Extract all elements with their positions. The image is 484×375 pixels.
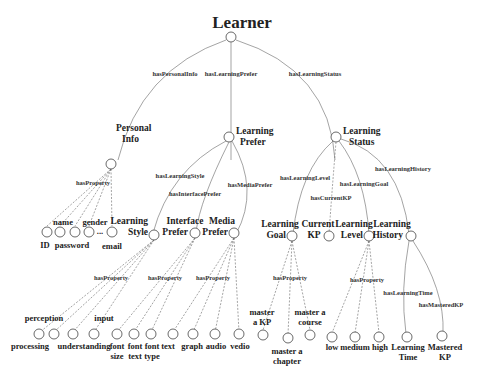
leaf-font-type-1: font: [145, 341, 160, 351]
leaf-node: [84, 227, 94, 237]
learning-status-label-1: Learning: [343, 126, 381, 136]
leaf-node: [70, 227, 80, 237]
leaf-master-course-1: master a: [294, 307, 326, 317]
edge: [369, 241, 379, 333]
learning-history-label-2: History: [372, 230, 403, 240]
learner-ontology-diagram: Learner hasPersonalInfo hasLearningPrefe…: [0, 0, 484, 375]
leaf-font-type-2: type: [144, 351, 160, 361]
edge-label-learning-level: hasLearningLevel: [280, 174, 330, 181]
edge: [173, 238, 234, 332]
leaf-node: [327, 332, 337, 342]
leaf-learning-time-2: Time: [399, 352, 418, 362]
leaf-medium: medium: [340, 342, 370, 352]
leaf-master-course-2: course: [298, 317, 322, 327]
learning-history-node: [406, 231, 416, 241]
current-kp-node: [324, 231, 334, 241]
leaf-low: low: [326, 342, 340, 352]
ellipsis: ...: [97, 226, 103, 236]
leaf-master-chapter-1: master a: [271, 346, 303, 356]
leaf-font-text-2: text: [128, 351, 142, 361]
leaf-name: name: [53, 217, 73, 227]
leaf-master-kp-2: a KP: [253, 317, 271, 327]
leaf-node: [402, 332, 412, 342]
leaf-mastered-kp-2: KP: [439, 352, 451, 362]
edge: [288, 241, 292, 335]
edge: [193, 238, 234, 332]
leaf-vedio: vedio: [230, 341, 249, 351]
leaf-node: [168, 329, 178, 339]
root-label: Learner: [212, 13, 272, 32]
learning-prefer-label-1: Learning: [236, 126, 274, 136]
leaf-node: [34, 329, 44, 339]
leaf-node: [42, 227, 52, 237]
edge-label-goal-property: hasProperty: [273, 274, 308, 281]
leaf-node: [350, 332, 360, 342]
leaf-node: [55, 227, 65, 237]
learning-style-label-2: Style: [128, 227, 148, 237]
edge: [151, 238, 195, 332]
edge-label-interface-prefer: hasInterfacePrefer: [169, 190, 221, 197]
edge-label-level-property: hasProperty: [350, 276, 385, 283]
leaf-master-kp-1: master: [249, 307, 274, 317]
leaf-node: [258, 330, 268, 340]
learning-level-label-1: Learning: [335, 219, 373, 229]
edge: [215, 238, 234, 332]
media-prefer-node: [229, 228, 239, 238]
leaf-node: [49, 329, 59, 339]
leaf-font-text-1: font: [128, 341, 143, 351]
leaf-font-size-1: font: [110, 341, 125, 351]
learning-status-label-2: Status: [349, 137, 375, 147]
leaf-node: [112, 329, 122, 339]
root-node: [226, 32, 236, 42]
interface-prefer-node: [190, 228, 200, 238]
leaf-node: [146, 329, 156, 339]
learning-goal-node: [287, 231, 297, 241]
edge-label-personal-property: hasProperty: [76, 179, 111, 186]
edge-label-learning-goal: hasLearningGoal: [340, 180, 389, 187]
edge-label-current-kp: hasCurrentKP: [310, 194, 351, 201]
leaf-node: [374, 332, 384, 342]
personal-info-label-2: Info: [122, 134, 139, 144]
leaf-mastered-kp-1: Mastered: [428, 342, 463, 352]
learning-history-label-1: Learning: [373, 219, 411, 229]
media-prefer-label-2: Prefer: [202, 227, 228, 237]
interface-prefer-label-1: Interface: [167, 216, 204, 226]
personal-info-node: [106, 159, 116, 169]
learning-style-label-1: Learning: [111, 216, 149, 226]
leaf-node: [188, 329, 198, 339]
leaf-node: [305, 330, 315, 340]
edge-label-learning-status: hasLearningStatus: [289, 70, 342, 77]
leaf-high: high: [372, 342, 388, 352]
learning-style-node: [149, 230, 159, 240]
leaf-id: ID: [40, 240, 49, 250]
current-kp-label-1: Current: [301, 219, 335, 229]
edge-label-interface-property: hasProperty: [148, 274, 183, 281]
learning-level-label-2: Level: [341, 230, 364, 240]
leaf-node: [234, 329, 244, 339]
leaf-learning-time-1: Learning: [391, 342, 425, 352]
leaf-node: [129, 329, 139, 339]
edge-label-personal-info: hasPersonalInfo: [152, 70, 197, 77]
current-kp-label-2: KP: [307, 230, 320, 240]
edge-label-learning-history: hasLearningHistory: [375, 165, 432, 172]
leaf-input: input: [94, 313, 114, 323]
leaf-node: [89, 329, 99, 339]
learning-goal-label-1: Learning: [261, 219, 299, 229]
leaf-node: [283, 333, 293, 343]
learning-prefer-label-2: Prefer: [240, 137, 266, 147]
leaf-perception: perception: [25, 313, 64, 323]
leaf-graph: graph: [181, 341, 203, 351]
leaf-understanding: understanding: [58, 341, 112, 351]
media-prefer-label-1: Media: [209, 216, 235, 226]
edge: [134, 238, 195, 332]
edge: [332, 241, 369, 333]
edge-label-media-prefer: hasMediaPrefer: [228, 181, 273, 188]
leaf-node: [68, 329, 78, 339]
interface-prefer-label-2: Prefer: [162, 227, 188, 237]
leaf-font-size-2: size: [110, 351, 123, 361]
edge-label-learning-time: hasLearningTime: [383, 289, 432, 296]
leaf-node: [107, 227, 117, 237]
edge-label-media-property: hasProperty: [196, 274, 231, 281]
edge-label-style-property: hasProperty: [94, 274, 129, 281]
learning-prefer-node: [224, 132, 234, 142]
